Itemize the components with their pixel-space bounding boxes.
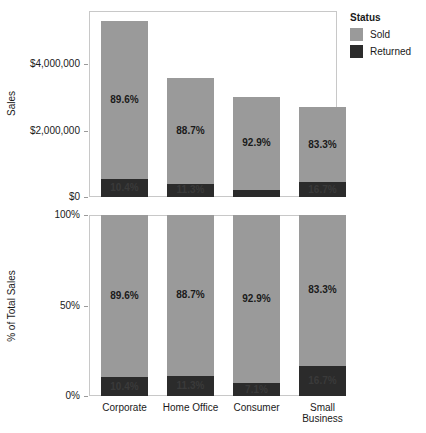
bar-corporate: 89.6%10.4%: [101, 21, 148, 197]
x-axis-label-corporate: Corporate: [92, 402, 157, 413]
bar-label-returned: 11.3%: [167, 185, 214, 195]
bar-label-returned: 16.7%: [299, 185, 346, 195]
bar-label-returned: 11.3%: [167, 381, 214, 391]
y-axis-tick: [84, 396, 88, 397]
y-axis-title: % of Total Sales: [6, 248, 17, 364]
y-axis-title: Sales: [6, 44, 17, 163]
y-axis-tick-label: $0: [0, 191, 80, 202]
legend-swatch-returned: [350, 45, 363, 58]
bar-label-returned: 7.1%: [233, 385, 280, 395]
bar-label-sold: 92.9%: [233, 138, 280, 148]
stacked-bar-chart: $0$2,000,000$4,000,000Sales89.6%10.4%88.…: [0, 0, 426, 433]
y-axis-tick-label: 0%: [0, 390, 80, 401]
legend-item-returned[interactable]: Returned: [350, 45, 411, 58]
legend: StatusSoldReturned: [350, 12, 411, 62]
bar-corporate: 89.6%10.4%: [101, 215, 148, 396]
bar-label-sold: 92.9%: [233, 294, 280, 304]
y-axis-tick: [84, 64, 88, 65]
legend-label-returned: Returned: [370, 46, 411, 57]
y-axis-tick-label: 100%: [0, 209, 80, 220]
bar-label-sold: 83.3%: [299, 285, 346, 295]
bar-small-business: 83.3%16.7%: [299, 107, 346, 197]
bar-segment-returned: [233, 190, 280, 197]
legend-label-sold: Sold: [370, 29, 390, 40]
bar-consumer: 92.9%7.1%: [233, 215, 280, 396]
y-axis-tick: [84, 215, 88, 216]
bar-label-returned: 10.4%: [101, 183, 148, 193]
bar-home-office: 88.7%11.3%: [167, 215, 214, 396]
legend-swatch-sold: [350, 28, 363, 41]
bar-label-returned: 10.4%: [101, 382, 148, 392]
y-axis-tick: [84, 197, 88, 198]
bar-consumer: 92.9%: [233, 97, 280, 197]
bar-label-returned: 16.7%: [299, 376, 346, 386]
bar-label-sold: 88.7%: [167, 290, 214, 300]
x-axis-label-small-business: Small Business: [290, 402, 355, 424]
x-axis-label-consumer: Consumer: [224, 402, 289, 413]
bar-label-sold: 89.6%: [101, 95, 148, 105]
x-axis-label-home-office: Home Office: [158, 402, 223, 413]
y-axis-tick: [84, 131, 88, 132]
bar-label-sold: 83.3%: [299, 140, 346, 150]
bar-label-sold: 89.6%: [101, 291, 148, 301]
bar-home-office: 88.7%11.3%: [167, 78, 214, 197]
bar-label-sold: 88.7%: [167, 126, 214, 136]
legend-title: Status: [350, 12, 411, 23]
legend-item-sold[interactable]: Sold: [350, 28, 411, 41]
bar-small-business: 83.3%16.7%: [299, 215, 346, 396]
y-axis-tick: [84, 306, 88, 307]
